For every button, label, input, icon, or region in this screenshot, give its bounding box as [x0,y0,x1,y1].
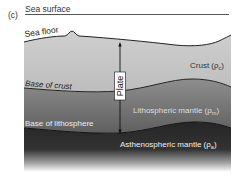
lithosphere-cross-section-diagram: Plate (c) Sea surface Sea floor Base of … [0,0,242,179]
sea-surface-label: Sea surface [25,4,71,14]
asthenospheric-mantle-label: Asthenospheric mantle (ρa) [120,140,217,150]
base-of-lithosphere-label: Base of lithosphere [25,119,94,128]
lithospheric-mantle-label: Lithospheric mantle (ρm) [133,106,219,116]
panel-label: (c) [8,10,18,20]
plate-label: Plate [115,76,125,97]
